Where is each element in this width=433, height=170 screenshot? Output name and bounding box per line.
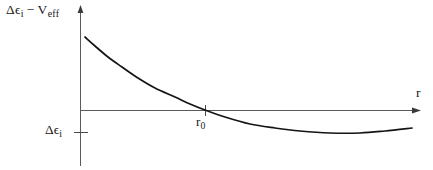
- y-axis-label-v-subscript: eff: [48, 8, 60, 19]
- y-axis-label: Δϵi−Veff: [6, 3, 59, 19]
- x-axis-label: r: [416, 86, 421, 100]
- y-axis-label-delta: Δϵ: [6, 2, 21, 17]
- x-axis-arrowhead: [412, 107, 421, 113]
- y-axis-label-v: V: [38, 2, 48, 17]
- y-axis-label-minus-operator: −: [24, 2, 38, 17]
- r0-label-subscript: 0: [200, 120, 205, 131]
- y-level-label-symbol: Δϵ: [45, 122, 59, 137]
- effective-potential-curve: [85, 37, 412, 133]
- y-level-label: Δϵi: [45, 123, 62, 139]
- y-level-label-subscript: i: [59, 128, 62, 139]
- r0-label: r0: [196, 115, 205, 130]
- y-axis-arrowhead: [78, 5, 84, 13]
- physics-plot-figure: Δϵi−Veff Δϵi r0 r: [0, 0, 433, 170]
- plot-canvas: [0, 0, 433, 170]
